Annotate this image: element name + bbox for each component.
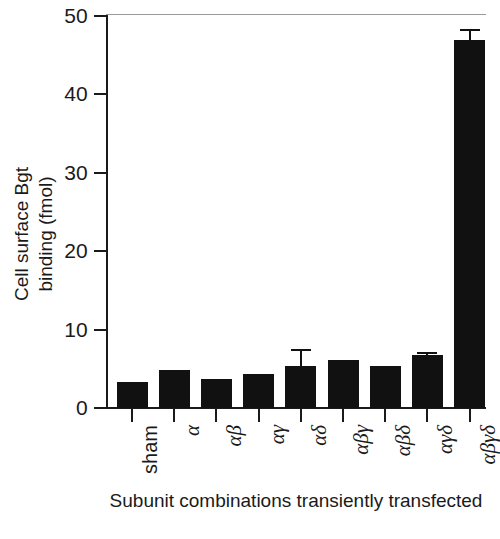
error-bar-cap xyxy=(417,352,437,354)
y-axis-tick xyxy=(94,407,106,409)
y-axis-tick-label-text: 50 xyxy=(30,5,88,26)
x-axis-tick xyxy=(215,409,217,422)
x-axis-tick xyxy=(469,409,471,422)
y-axis-tick xyxy=(94,93,106,95)
y-axis-tick-label-text: 0 xyxy=(30,397,88,418)
figure-top-rule xyxy=(106,14,486,15)
x-axis-tick xyxy=(173,409,175,422)
bar xyxy=(370,366,401,408)
y-axis-tick xyxy=(94,329,106,331)
y-axis-tick xyxy=(94,15,106,17)
error-bar-stem xyxy=(300,349,302,365)
bar xyxy=(159,370,190,408)
bar xyxy=(412,355,443,408)
x-axis-category-label: αβδ xyxy=(393,425,413,456)
x-axis-title-line-2: transiently transfected xyxy=(297,490,483,511)
y-axis-title-line-1: Cell surface Bgt xyxy=(10,104,34,364)
bars-layer xyxy=(106,16,486,408)
x-axis-tick xyxy=(384,409,386,422)
bar xyxy=(243,374,274,408)
y-axis-tick-label: 50 xyxy=(28,5,88,26)
x-axis-category-label: sham xyxy=(140,425,160,474)
y-axis-title-line-2: binding (fmol) xyxy=(34,104,58,364)
x-axis-title-line-1: Subunit combinations xyxy=(110,490,292,511)
x-axis-tick xyxy=(426,409,428,422)
bar xyxy=(117,382,148,408)
y-axis-tick xyxy=(94,172,106,174)
x-axis-category-label: αγ xyxy=(267,425,287,444)
x-axis-tick xyxy=(258,409,260,422)
x-axis-category-label: αδ xyxy=(309,425,329,446)
x-axis-tick xyxy=(342,409,344,422)
y-axis-tick-label-text: 40 xyxy=(30,83,88,104)
x-axis-title: Subunit combinations transiently transfe… xyxy=(106,489,486,513)
error-bar-cap xyxy=(291,349,311,351)
y-axis-tick xyxy=(94,250,106,252)
error-bar-cap xyxy=(460,29,480,31)
x-axis-category-label: αβγδ xyxy=(478,425,498,465)
y-axis-title: Cell surface Bgt binding (fmol) xyxy=(10,104,58,364)
x-axis-category-label: αγδ xyxy=(435,425,455,454)
y-axis-tick-label: 0 xyxy=(28,397,88,418)
bar xyxy=(201,379,232,408)
x-axis-category-label: α xyxy=(182,425,202,436)
x-axis-category-label: αβγ xyxy=(351,425,371,455)
x-axis-tick xyxy=(300,409,302,422)
x-axis-tick xyxy=(131,409,133,422)
bar xyxy=(328,360,359,408)
bar xyxy=(285,366,316,408)
bar xyxy=(454,40,485,408)
x-axis-category-label: αβ xyxy=(224,425,244,446)
y-axis-tick-label: 40 xyxy=(28,83,88,104)
